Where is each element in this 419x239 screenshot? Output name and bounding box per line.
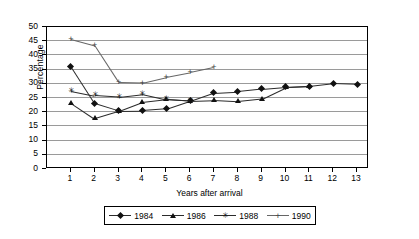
marker-diamond-icon: [210, 89, 217, 96]
x-tick-mark: [237, 168, 238, 172]
gridline: [47, 54, 367, 55]
marker-triangle-icon: [283, 84, 289, 89]
y-tick-label: 5: [14, 149, 38, 158]
marker-plus-icon: +: [211, 64, 217, 70]
y-tick-label: 35: [14, 64, 38, 73]
legend-label: 1988: [239, 211, 258, 221]
gridline: [47, 83, 367, 84]
x-tick-mark: [332, 168, 333, 172]
y-tick-mark: [42, 125, 46, 126]
legend-symbol: +: [267, 212, 289, 220]
y-tick-mark: [42, 26, 46, 27]
x-tick-label: 9: [253, 174, 269, 183]
x-tick-label: 1: [62, 174, 78, 183]
y-tick-mark: [42, 69, 46, 70]
y-tick-label: 10: [14, 135, 38, 144]
legend-symbol: ✳: [214, 212, 236, 220]
marker-triangle-icon: [211, 97, 217, 102]
legend-symbol: [109, 212, 131, 220]
marker-triangle-icon: [92, 115, 98, 120]
marker-triangle-icon: [139, 99, 145, 104]
y-tick-label: 20: [14, 107, 38, 116]
y-tick-mark: [42, 140, 46, 141]
x-tick-mark: [308, 168, 309, 172]
marker-diamond-icon: [117, 212, 124, 219]
y-tick-label: 45: [14, 36, 38, 45]
marker-star-icon: ✳: [116, 94, 122, 100]
marker-plus-icon: +: [187, 69, 193, 75]
x-axis-title: Years after arrival: [0, 188, 419, 198]
x-tick-label: 10: [277, 174, 293, 183]
marker-star-icon: ✳: [92, 92, 98, 98]
x-tick-label: 12: [324, 174, 340, 183]
marker-plus-icon: +: [275, 213, 281, 219]
y-tick-mark: [42, 111, 46, 112]
y-tick-label: 15: [14, 121, 38, 130]
marker-triangle-icon: [170, 213, 176, 218]
legend-label: 1986: [187, 211, 206, 221]
marker-star-icon: ✳: [163, 96, 169, 102]
marker-plus-icon: +: [139, 80, 145, 86]
plot-area: ✳✳✳✳✳✳+++++++: [46, 26, 368, 168]
marker-diamond-icon: [91, 100, 98, 107]
marker-plus-icon: +: [163, 74, 169, 80]
y-tick-mark: [42, 83, 46, 84]
x-tick-mark: [356, 168, 357, 172]
legend-item-1990[interactable]: +1990: [267, 211, 311, 221]
legend-item-1988[interactable]: ✳1988: [214, 211, 258, 221]
x-tick-mark: [213, 168, 214, 172]
x-tick-label: 7: [205, 174, 221, 183]
legend-label: 1990: [292, 211, 311, 221]
marker-diamond-icon: [354, 81, 361, 88]
marker-plus-icon: +: [92, 42, 98, 48]
y-tick-mark: [42, 97, 46, 98]
marker-star-icon: ✳: [187, 98, 193, 104]
x-tick-mark: [94, 168, 95, 172]
marker-diamond-icon: [234, 88, 241, 95]
line-chart: Percentage ✳✳✳✳✳✳+++++++ Years after arr…: [0, 0, 419, 239]
marker-triangle-icon: [116, 108, 122, 113]
x-tick-label: 2: [86, 174, 102, 183]
marker-triangle-icon: [68, 100, 74, 105]
legend-item-1984[interactable]: 1984: [109, 211, 153, 221]
x-tick-mark: [70, 168, 71, 172]
y-tick-mark: [42, 40, 46, 41]
gridline: [47, 125, 367, 126]
gridline: [47, 111, 367, 112]
x-tick-label: 8: [229, 174, 245, 183]
chart-legend: 19841986✳1988+1990: [104, 206, 316, 225]
y-tick-label: 30: [14, 78, 38, 87]
y-tick-mark: [42, 54, 46, 55]
marker-triangle-icon: [235, 98, 241, 103]
y-tick-label: 25: [14, 93, 38, 102]
y-tick-mark: [42, 154, 46, 155]
marker-triangle-icon: [259, 96, 265, 101]
marker-star-icon: ✳: [139, 91, 145, 97]
y-tick-label: 0: [14, 164, 38, 173]
marker-diamond-icon: [330, 80, 337, 87]
marker-diamond-icon: [258, 85, 265, 92]
series-line-segment: [94, 45, 119, 82]
y-tick-mark: [42, 168, 46, 169]
marker-diamond-icon: [139, 107, 146, 114]
x-tick-mark: [118, 168, 119, 172]
x-tick-mark: [141, 168, 142, 172]
x-tick-label: 3: [110, 174, 126, 183]
x-tick-label: 5: [157, 174, 173, 183]
marker-plus-icon: +: [68, 36, 74, 42]
marker-plus-icon: +: [116, 79, 122, 85]
y-tick-label: 40: [14, 50, 38, 59]
gridline: [47, 140, 367, 141]
x-tick-label: 11: [300, 174, 316, 183]
legend-item-1986[interactable]: 1986: [162, 211, 206, 221]
x-tick-label: 4: [133, 174, 149, 183]
gridline: [47, 154, 367, 155]
legend-label: 1984: [134, 211, 153, 221]
marker-triangle-icon: [306, 83, 312, 88]
x-tick-mark: [261, 168, 262, 172]
marker-star-icon: ✳: [222, 213, 228, 219]
legend-symbol: [162, 212, 184, 220]
x-tick-mark: [285, 168, 286, 172]
marker-star-icon: ✳: [68, 88, 74, 94]
x-tick-label: 13: [348, 174, 364, 183]
